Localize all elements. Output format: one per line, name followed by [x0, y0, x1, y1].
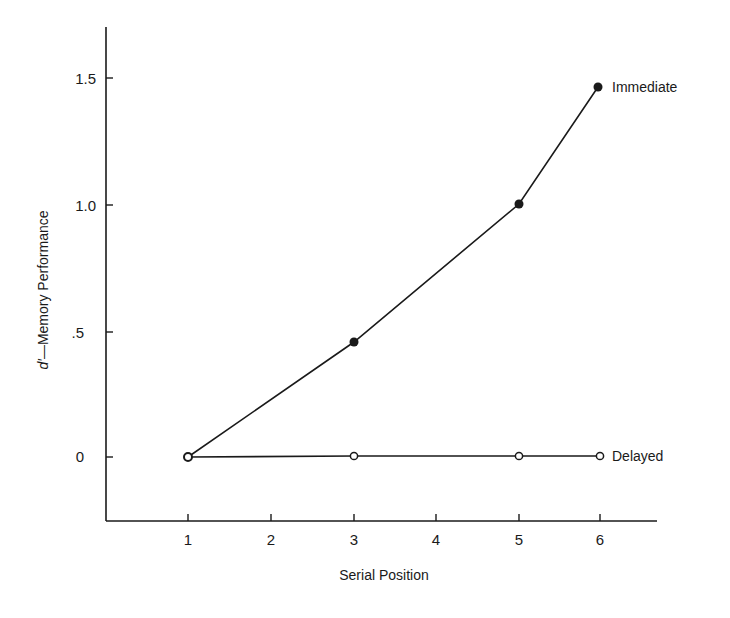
- y-tick: 1.0: [75, 197, 113, 214]
- immediate-point: [515, 200, 524, 209]
- series-delayed: Delayed: [188, 448, 663, 464]
- x-tick-label: 4: [432, 531, 440, 548]
- delayed-line: [188, 456, 600, 457]
- line-chart: 0 .5 1.0 1.5 1 2 3 4: [0, 0, 730, 618]
- x-tick-label: 6: [596, 531, 604, 548]
- immediate-point: [350, 338, 359, 347]
- y-tick-label: 0: [76, 448, 84, 465]
- delayed-point: [596, 452, 603, 459]
- x-tick-label: 3: [350, 531, 358, 548]
- x-tick: 4: [432, 514, 440, 548]
- x-tick: 3: [350, 514, 358, 548]
- immediate-point: [594, 83, 603, 92]
- y-tick-label: 1.0: [75, 197, 96, 214]
- axes: [106, 27, 657, 521]
- y-tick: 0: [76, 448, 113, 465]
- x-tick-label: 1: [184, 531, 192, 548]
- x-tick-label: 5: [515, 531, 523, 548]
- x-tick: 1: [184, 514, 192, 548]
- series-immediate: Immediate: [188, 79, 678, 457]
- y-tick-label: 1.5: [75, 70, 96, 87]
- shared-origin-point: [184, 453, 192, 461]
- y-tick-label: .5: [71, 324, 84, 341]
- x-ticks: 1 2 3 4 5 6: [184, 514, 604, 548]
- delayed-point: [350, 452, 357, 459]
- delayed-label: Delayed: [612, 448, 663, 464]
- delayed-point: [515, 452, 522, 459]
- y-axis-title-rest: —Memory Performance: [35, 210, 51, 359]
- immediate-label: Immediate: [612, 79, 678, 95]
- x-axis-title: Serial Position: [339, 567, 429, 583]
- x-tick: 6: [596, 514, 604, 548]
- immediate-line: [188, 87, 598, 457]
- x-tick: 5: [515, 514, 523, 548]
- x-tick: 2: [267, 514, 275, 548]
- y-axis-title: d′—Memory Performance: [35, 210, 51, 369]
- x-tick-label: 2: [267, 531, 275, 548]
- y-tick: 1.5: [75, 70, 113, 87]
